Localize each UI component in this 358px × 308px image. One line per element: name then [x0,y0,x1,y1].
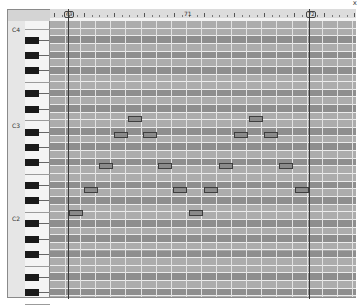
white-key-divider [25,304,50,305]
black-key[interactable] [25,197,39,204]
bar-marker[interactable]: 72 [306,10,316,18]
ruler-tick [264,13,265,17]
ruler-tick [234,13,235,17]
beat-line [80,21,81,297]
black-key[interactable] [25,289,39,296]
beat-line [171,21,172,297]
ruler-tick [302,15,303,17]
black-key[interactable] [25,144,39,151]
beat-line [307,21,308,297]
ruler-tick [204,13,205,17]
midi-note[interactable] [99,163,113,169]
ruler-tick [144,13,145,17]
white-key-divider [25,82,50,83]
ruler-tick [249,15,250,17]
octave-label: C4 [12,26,20,33]
black-key[interactable] [25,251,39,258]
piano-keyboard[interactable] [25,21,50,297]
ruler-tick [197,15,198,17]
midi-note[interactable] [69,210,83,216]
beat-line [337,21,338,297]
midi-note[interactable] [234,132,248,138]
midi-note[interactable] [264,132,278,138]
octave-label-column: C4C3C2 [8,21,26,297]
bar-marker-label: 69 [64,11,74,18]
beat-line [141,21,142,297]
beat-line [231,21,232,297]
ruler-tick [227,15,228,17]
white-key-divider [25,174,50,175]
beat-line [352,21,353,297]
ruler-tick [279,15,280,17]
beat-line [216,21,217,297]
octave-label: C2 [12,215,20,222]
ruler-tick [92,15,93,17]
black-key[interactable] [25,182,39,189]
midi-note[interactable] [295,187,309,193]
midi-note[interactable] [249,116,263,122]
ruler-tick [99,15,100,17]
black-key[interactable] [25,67,39,74]
white-key-divider [25,29,50,30]
ruler-tick [212,15,213,17]
ruler-tick [167,15,168,17]
black-key[interactable] [25,236,39,243]
ruler-tick [152,15,153,17]
ruler-tick [182,15,183,17]
beat-line [186,21,187,297]
beat-line [292,21,293,297]
bar-marker[interactable]: 69 [64,10,74,18]
black-key[interactable] [25,220,39,227]
loop-start-line[interactable] [68,9,69,299]
ruler-tick [77,15,78,17]
black-key[interactable] [25,129,39,136]
bar-marker-label: 72 [306,11,316,18]
midi-note[interactable] [279,163,293,169]
ruler-tick [54,13,55,17]
midi-note[interactable] [114,132,128,138]
ruler-tick [114,13,115,17]
note-grid[interactable] [50,21,356,297]
midi-note[interactable] [204,187,218,193]
midi-note[interactable] [219,163,233,169]
beat-line [322,21,323,297]
ruler-tick [159,15,160,17]
ruler-tick [137,15,138,17]
white-key-divider [25,266,50,267]
octave-label: C3 [12,122,20,129]
ruler-tick [129,15,130,17]
black-key[interactable] [25,274,39,281]
ruler-tick [219,15,220,17]
ruler-tick [287,15,288,17]
black-key[interactable] [25,159,39,166]
midi-note[interactable] [84,187,98,193]
ruler-tick [242,15,243,17]
midi-note[interactable] [173,187,187,193]
black-key[interactable] [25,106,39,113]
black-key[interactable] [25,90,39,97]
midi-note[interactable] [158,163,172,169]
beat-line [276,21,277,297]
ruler-tick [324,13,325,17]
ruler-tick [107,15,108,17]
ruler-tick [84,13,85,17]
black-key[interactable] [25,37,39,44]
loop-end-line[interactable] [309,9,310,299]
beat-line [261,21,262,297]
midi-note[interactable] [189,210,203,216]
midi-note[interactable] [143,132,157,138]
ruler-tick [354,13,355,17]
close-icon[interactable]: x [353,0,357,7]
ruler-tick [294,13,295,17]
ruler-tick [317,15,318,17]
bar-marker[interactable]: 71 [184,10,192,17]
white-key-divider [25,120,50,121]
black-key[interactable] [25,52,39,59]
ruler-tick [174,13,175,17]
beat-line [246,21,247,297]
ruler-tick [122,15,123,17]
midi-note[interactable] [128,116,142,122]
ruler-tick [339,15,340,17]
beat-line [201,21,202,297]
beat-line [65,21,66,297]
